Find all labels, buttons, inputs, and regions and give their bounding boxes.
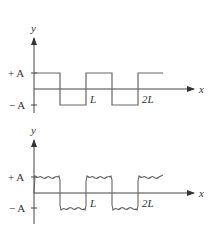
y-axis-label: y [30, 22, 36, 34]
tick-label-2l: 2L [142, 93, 154, 105]
x-axis-label: x [198, 187, 204, 199]
y-axis-label: y [30, 124, 36, 136]
tick-label-l: L [89, 197, 96, 209]
minus-a-label: − A [9, 99, 25, 111]
plus-a-label: + A [8, 171, 24, 183]
tick-label-2l: 2L [142, 197, 154, 209]
square-wave-figure: y x + A − A L 2L [8, 22, 204, 113]
tick-label-l: L [89, 93, 96, 105]
minus-a-label: − A [9, 202, 25, 214]
plus-a-label: + A [8, 67, 24, 79]
x-axis-label: x [198, 83, 204, 95]
fourier-approximation-figure: y x + A − A L 2L [8, 124, 204, 224]
diagram-canvas: y x + A − A L 2L y x + A − A L 2L [0, 0, 219, 231]
